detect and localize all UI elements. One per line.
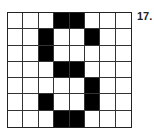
empty-cell [54,94,69,110]
empty-cell [85,111,100,127]
empty-cell [85,46,100,62]
empty-cell [100,46,115,62]
filled-cell [70,111,85,127]
empty-cell [70,78,85,94]
empty-cell [85,62,100,78]
filled-cell [39,29,54,45]
empty-cell [23,78,38,94]
empty-cell [54,78,69,94]
empty-cell [100,13,115,29]
empty-cell [8,78,23,94]
filled-cell [54,13,69,29]
empty-cell [100,94,115,110]
empty-cell [85,13,100,29]
empty-cell [8,29,23,45]
filled-cell [54,62,69,78]
problem-number: 17. [137,10,152,22]
filled-cell [85,78,100,94]
filled-cell [85,29,100,45]
empty-cell [116,62,131,78]
empty-cell [23,13,38,29]
empty-cell [100,111,115,127]
empty-cell [100,78,115,94]
pixel-grid [7,12,132,128]
empty-cell [39,62,54,78]
filled-cell [70,62,85,78]
filled-cell [85,94,100,110]
empty-cell [23,111,38,127]
empty-cell [8,94,23,110]
empty-cell [8,111,23,127]
empty-cell [8,46,23,62]
empty-cell [54,29,69,45]
empty-cell [23,94,38,110]
empty-cell [116,78,131,94]
empty-cell [70,94,85,110]
empty-cell [23,46,38,62]
empty-cell [70,29,85,45]
empty-cell [116,111,131,127]
empty-cell [70,46,85,62]
empty-cell [100,29,115,45]
empty-cell [116,46,131,62]
empty-cell [116,13,131,29]
empty-cell [23,29,38,45]
empty-cell [23,62,38,78]
filled-cell [39,94,54,110]
filled-cell [70,13,85,29]
empty-cell [8,13,23,29]
empty-cell [54,46,69,62]
filled-cell [54,111,69,127]
empty-cell [116,29,131,45]
empty-cell [39,111,54,127]
empty-cell [8,62,23,78]
empty-cell [116,94,131,110]
empty-cell [100,62,115,78]
empty-cell [39,78,54,94]
empty-cell [39,13,54,29]
filled-cell [39,46,54,62]
